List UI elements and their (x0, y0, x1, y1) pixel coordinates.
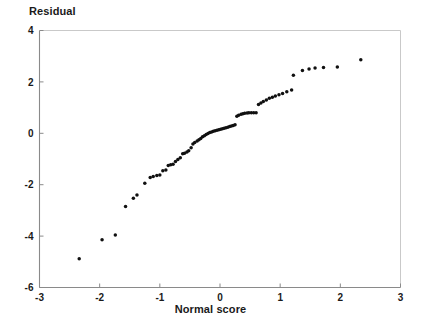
x-axis-title: Normal score (0, 303, 421, 315)
data-point (322, 66, 326, 70)
data-point (187, 149, 191, 153)
y-tick-label: -2 (25, 179, 34, 190)
axes (40, 31, 401, 288)
tick-marks (40, 31, 401, 288)
data-point (135, 193, 139, 197)
data-point (100, 238, 104, 242)
data-point (301, 69, 305, 73)
data-point (132, 197, 136, 201)
normal-probability-plot-figure: Residual -3-2-10123-6-4-2024 Normal scor… (0, 0, 421, 321)
data-point (164, 168, 168, 172)
data-point (77, 257, 81, 261)
x-tick-label: 3 (398, 292, 404, 303)
y-tick-label: 4 (28, 25, 34, 36)
y-tick-label: -6 (25, 282, 34, 293)
y-tick-label: -4 (25, 231, 34, 242)
data-point (285, 90, 289, 94)
data-point (143, 181, 147, 185)
x-tick-label: 2 (338, 292, 344, 303)
x-tick-label: 0 (217, 292, 223, 303)
x-tick-label: 1 (277, 292, 283, 303)
data-point (268, 97, 272, 101)
data-point (274, 94, 278, 98)
data-point (271, 96, 275, 100)
tick-labels: -3-2-10123-6-4-2024 (25, 25, 404, 302)
y-tick-label: 0 (28, 128, 34, 139)
data-point (158, 173, 162, 177)
data-point (155, 174, 159, 178)
data-point (254, 111, 258, 115)
data-point (151, 175, 155, 179)
data-point (281, 92, 285, 96)
x-tick-label: -2 (95, 292, 104, 303)
x-tick-label: -3 (35, 292, 44, 303)
data-point (262, 100, 266, 104)
data-point (189, 146, 193, 150)
y-tick-label: 2 (28, 77, 34, 88)
data-point (171, 162, 175, 166)
data-point (233, 123, 237, 127)
data-point (307, 67, 311, 71)
plot-canvas: -3-2-10123-6-4-2024 (0, 0, 421, 321)
data-point (179, 156, 183, 160)
data-point (277, 93, 281, 97)
x-tick-label: -1 (155, 292, 164, 303)
data-point (148, 176, 152, 180)
data-points (77, 58, 362, 260)
data-point (290, 88, 294, 92)
data-point (114, 233, 118, 237)
data-point (265, 98, 269, 102)
data-point (124, 205, 128, 209)
data-point (336, 65, 340, 69)
data-point (292, 73, 296, 77)
data-point (313, 66, 317, 70)
data-point (359, 58, 363, 62)
data-point (161, 169, 165, 173)
